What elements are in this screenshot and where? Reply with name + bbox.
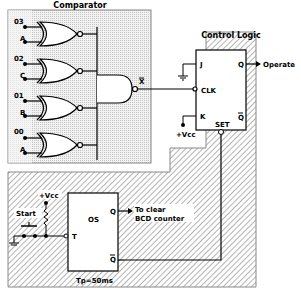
svg-text:OS: OS [88, 216, 99, 224]
pulse-label: Tp=50ms [76, 277, 113, 285]
svg-text:00: 00 [14, 128, 24, 136]
svg-text:02: 02 [14, 55, 24, 63]
svg-text:Q: Q [238, 61, 244, 69]
svg-text:CLK: CLK [201, 87, 217, 95]
svg-text:To clear: To clear [135, 206, 166, 214]
svg-text:+Vcc: +Vcc [39, 192, 59, 200]
svg-text:Q: Q [110, 208, 116, 216]
svg-text:T: T [72, 233, 77, 241]
svg-text:C: C [20, 72, 25, 80]
svg-text:B: B [20, 109, 25, 117]
svg-text:03: 03 [14, 18, 24, 26]
svg-text:SET: SET [215, 121, 230, 129]
x-bar-label: X [139, 78, 145, 86]
svg-text:BCD counter: BCD counter [135, 215, 185, 223]
svg-text:Q: Q [238, 114, 244, 122]
svg-text:A: A [20, 35, 26, 43]
circuit-diagram: Comparator Control Logic J Q CLK K Q SET… [0, 0, 301, 291]
comparator-title: Comparator [53, 1, 106, 10]
svg-text:J: J [199, 61, 203, 69]
svg-text:01: 01 [14, 92, 24, 100]
start-label: Start [16, 210, 37, 218]
control-logic-title: Control Logic [201, 31, 261, 40]
svg-text:K: K [200, 113, 206, 121]
svg-text:+Vcc: +Vcc [176, 131, 196, 139]
svg-text:A: A [20, 146, 26, 154]
svg-text:Q: Q [110, 256, 116, 264]
operate-label: Operate [263, 61, 295, 69]
